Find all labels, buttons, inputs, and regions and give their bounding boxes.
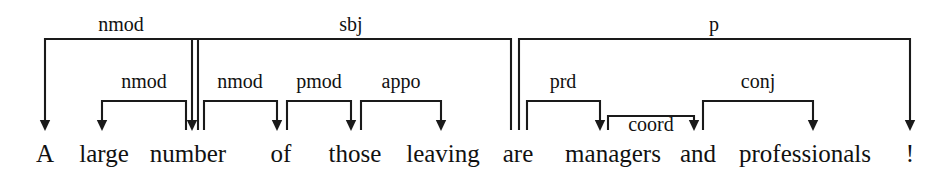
token-large: large: [79, 140, 129, 167]
arrow-head: [346, 120, 356, 131]
relation-label-nmod: nmod: [217, 70, 263, 92]
sentence-tokens-layer: Alargenumberofthoseleavingaremanagersand…: [36, 140, 914, 167]
dependency-arc-nmod: [40, 39, 198, 131]
arrow-head: [905, 120, 915, 131]
dependency-arc-appo: [361, 101, 446, 131]
dependency-arc-nmod: [204, 101, 282, 131]
arc-line: [519, 39, 910, 130]
arcs-layer: [40, 39, 915, 131]
token-are: are: [503, 140, 534, 167]
parse-tree-canvas: nmodsbjpnmodnmodpmodappoprdconjcoord Ala…: [0, 0, 944, 175]
arrow-head: [187, 120, 197, 131]
dependency-arc-prd: [527, 101, 605, 131]
arc-line: [703, 101, 813, 130]
relation-label-p: p: [709, 13, 719, 36]
arc-line: [361, 101, 441, 130]
token-leaving: leaving: [406, 140, 480, 167]
relation-labels-layer: nmodsbjpnmodnmodpmodappoprdconjcoord: [98, 13, 775, 135]
arrow-head: [808, 120, 818, 131]
arrow-head: [97, 120, 107, 131]
relation-label-coord: coord: [628, 113, 674, 135]
relation-label-nmod: nmod: [121, 70, 167, 92]
token-: !: [906, 140, 914, 167]
dependency-arc-conj: [703, 101, 818, 131]
arrow-head: [689, 120, 699, 131]
token-and: and: [680, 140, 717, 167]
token-managers: managers: [565, 140, 661, 167]
token-of: of: [271, 140, 293, 167]
token-A: A: [36, 140, 54, 167]
arrow-head: [595, 120, 605, 131]
arrow-head: [40, 120, 50, 131]
relation-label-conj: conj: [741, 70, 775, 93]
dependency-arc-p: [519, 39, 915, 131]
relation-label-appo: appo: [382, 70, 421, 93]
arrow-head: [436, 120, 446, 131]
dependency-arc-pmod: [287, 101, 356, 131]
arc-line: [527, 101, 600, 130]
arc-line: [204, 101, 277, 130]
dependency-parse-diagram: nmodsbjpnmodnmodpmodappoprdconjcoord Ala…: [0, 0, 944, 175]
token-number: number: [150, 140, 227, 167]
token-those: those: [329, 140, 382, 167]
relation-label-nmod: nmod: [98, 13, 144, 35]
token-professionals: professionals: [739, 140, 871, 167]
arc-line: [287, 101, 351, 130]
arc-line: [102, 101, 186, 130]
relation-label-prd: prd: [550, 70, 577, 93]
relation-label-sbj: sbj: [339, 13, 362, 36]
arrow-head: [272, 120, 282, 131]
dependency-arc-nmod: [97, 101, 186, 131]
relation-label-pmod: pmod: [296, 70, 342, 93]
